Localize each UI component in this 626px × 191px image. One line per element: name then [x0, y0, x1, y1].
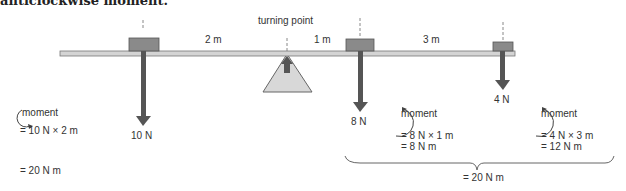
weight-right — [493, 42, 513, 51]
turning-point-label: turning point — [258, 15, 313, 26]
moment-calc-mid-1: = 8 N × 1 m — [401, 130, 453, 141]
moment-calc-right-1: = 4 N × 3 m — [541, 130, 593, 141]
weight-left — [129, 38, 159, 51]
force-mid-label: 8 N — [351, 116, 367, 127]
force-arrow-left-icon — [136, 116, 151, 126]
force-arrow-mid-icon — [353, 102, 368, 112]
force-right-label: 4 N — [494, 94, 510, 105]
distance-right-label: 3 m — [423, 34, 440, 45]
moment-calc-right-2: = 12 N m — [541, 141, 582, 152]
force-arrow-mid-shaft — [358, 51, 363, 103]
moment-label-left: moment — [22, 107, 58, 118]
force-arrow-right-shaft — [500, 51, 505, 81]
lever-diagram — [0, 0, 626, 191]
weight-mid — [346, 39, 374, 51]
moment-calc-mid-2: = 8 N m — [401, 141, 436, 152]
force-arrow-right-icon — [495, 80, 510, 90]
moment-label-mid: moment — [401, 108, 437, 119]
sum-brace — [345, 156, 614, 170]
beam — [60, 51, 515, 56]
distance-mid-label: 1 m — [314, 34, 331, 45]
force-left-label: 10 N — [131, 130, 152, 141]
moment-label-right: moment — [541, 108, 577, 119]
force-arrow-left-shaft — [141, 51, 146, 117]
moment-calc-left-1: = 10 N × 2 m — [20, 125, 78, 136]
moment-calc-left-2: = 20 N m — [20, 165, 61, 176]
total-moment-label: = 20 N m — [463, 172, 504, 183]
distance-left-label: 2 m — [205, 34, 222, 45]
